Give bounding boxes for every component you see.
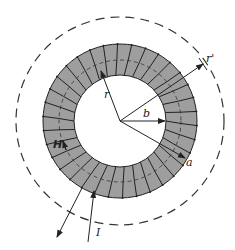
winding-dot (43, 130, 45, 132)
winding-dot (173, 175, 175, 177)
winding-dot (42, 115, 44, 117)
winding-dot (179, 72, 181, 74)
winding-dot (145, 47, 147, 49)
label-a: a (186, 156, 193, 169)
winding-dot (136, 195, 138, 197)
winding-dot (195, 110, 197, 112)
winding-dot (131, 44, 133, 46)
winding-dot (102, 45, 104, 47)
winding-dot (196, 125, 198, 127)
winding-dot (107, 196, 109, 198)
winding-dot (46, 144, 48, 146)
winding-dot (149, 191, 151, 193)
toroid-figure: r r' b a H I (0, 0, 235, 250)
winding-dot (44, 101, 46, 103)
label-H: H (53, 138, 62, 151)
current-lead-in (88, 191, 94, 242)
label-I: I (95, 226, 101, 239)
winding-dot (59, 168, 61, 170)
winding-dot (162, 184, 164, 186)
toroid-diagram: r r' b a H I (0, 0, 235, 250)
winding-dot (122, 197, 124, 199)
label-r-prime: r' (206, 52, 214, 65)
winding-dot (89, 49, 91, 51)
winding-dot (49, 88, 51, 90)
winding-dot (69, 179, 71, 181)
winding-dot (56, 76, 58, 78)
label-b: b (143, 107, 150, 120)
winding-dot (194, 139, 196, 141)
label-r: r (104, 88, 110, 101)
winding-dot (65, 65, 67, 67)
winding-dot (192, 97, 194, 99)
winding-dot (117, 43, 119, 45)
winding-dot (76, 56, 78, 58)
winding-dot (51, 157, 53, 159)
winding-dot (157, 53, 159, 55)
winding-dot (169, 61, 171, 63)
winding-dot (187, 84, 189, 86)
winding-dot (182, 164, 184, 166)
current-lead-out (57, 188, 82, 237)
winding-dot (189, 152, 191, 154)
